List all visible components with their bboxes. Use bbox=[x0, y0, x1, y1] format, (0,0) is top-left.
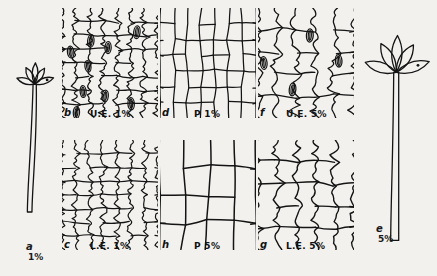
panel-h-caption: P 5% bbox=[194, 242, 220, 251]
leaf-mark-dot bbox=[46, 79, 49, 82]
panel-f-letter: f bbox=[260, 108, 265, 118]
habit-a-label: a1% bbox=[26, 242, 43, 262]
panel-d-palisade-1pct bbox=[160, 8, 256, 118]
stoma bbox=[335, 54, 342, 67]
stoma bbox=[73, 106, 80, 118]
habit-a-concentration: 1% bbox=[28, 253, 43, 262]
panel-b-caption: U.E. 1% bbox=[90, 110, 131, 119]
stoma bbox=[306, 29, 313, 43]
panel-h-letter: h bbox=[162, 240, 169, 250]
stem bbox=[27, 84, 36, 212]
illustration-plate: bU.E. 1%dP 1%fU.E. 5%cL.E. 1%hP 5%gL.E. … bbox=[0, 0, 437, 276]
stoma bbox=[87, 35, 94, 48]
panel-b-upper-epidermis-1pct bbox=[62, 8, 158, 118]
leaf-mark-dot bbox=[417, 64, 420, 67]
panel-f-caption: U.E. 5% bbox=[286, 110, 327, 119]
stoma bbox=[80, 86, 87, 98]
panel-d-caption: P 1% bbox=[194, 110, 220, 119]
whole-plant-habit-high bbox=[364, 28, 434, 250]
panel-c-lower-epidermis-1pct bbox=[62, 140, 158, 250]
habit-e-letter: e bbox=[376, 224, 393, 235]
whole-plant-habit-low bbox=[8, 46, 66, 236]
panel-h-palisade-5pct bbox=[160, 140, 256, 250]
habit-e-label: e5% bbox=[376, 224, 393, 244]
panel-g-letter: g bbox=[260, 240, 267, 250]
habit-a-letter: a bbox=[26, 242, 43, 253]
panel-d-letter: d bbox=[162, 108, 169, 118]
panel-c-letter: c bbox=[64, 240, 70, 250]
panel-c-caption: L.E. 1% bbox=[90, 242, 129, 251]
panel-g-caption: L.E. 5% bbox=[286, 242, 325, 251]
stoma bbox=[260, 56, 268, 69]
stoma bbox=[102, 90, 109, 102]
leaf bbox=[365, 61, 396, 73]
stoma bbox=[67, 46, 75, 59]
stem bbox=[391, 72, 399, 240]
habit-e-concentration: 5% bbox=[378, 235, 393, 244]
panel-f-upper-epidermis-5pct bbox=[258, 8, 354, 118]
panel-g-lower-epidermis-5pct bbox=[258, 140, 354, 250]
